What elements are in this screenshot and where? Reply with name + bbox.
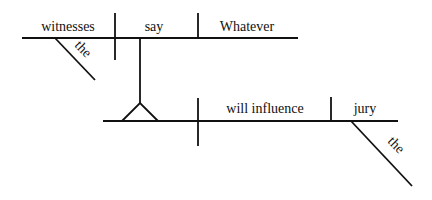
- object-word: Whatever: [220, 19, 275, 34]
- sentence-diagram: witnesses say Whatever the will influenc…: [0, 0, 432, 200]
- subject-word: witnesses: [41, 19, 95, 34]
- clause-verb-word: will influence: [226, 101, 303, 116]
- verb-word: say: [145, 19, 164, 34]
- subject-modifier-word: the: [72, 38, 95, 61]
- object-modifier-word: the: [385, 134, 408, 157]
- clause-object-word: jury: [353, 101, 377, 116]
- pedestal: [122, 103, 158, 121]
- object-modifier-line: [351, 121, 412, 186]
